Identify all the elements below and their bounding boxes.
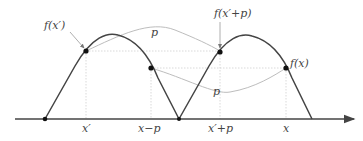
guide-lines — [86, 51, 286, 119]
tick-label-x-minus-p: x−p — [138, 122, 160, 135]
label-p-top: p — [151, 26, 158, 39]
point-f-xprime — [83, 48, 88, 53]
label-f-xprime-plus-p: f(x′+p) — [213, 7, 252, 20]
tick-label-x: x — [283, 122, 290, 135]
periodic-function-diagram: f(x′) f(x′+p) f(x) p p x′ x−p x′+p x — [0, 0, 363, 141]
point-f-x-minus-p — [148, 65, 153, 70]
label-p-bottom: p — [213, 85, 220, 98]
tick-label-xprime: x′ — [82, 122, 91, 135]
point-f-xprime-plus-p — [217, 49, 222, 54]
callout-arrow-f-xprime — [70, 32, 84, 48]
tick-label-xprime-plus-p: x′+p — [208, 122, 233, 135]
label-f-xprime: f(x′) — [43, 19, 65, 32]
point-zero-mid — [177, 117, 181, 121]
label-f-x: f(x) — [289, 57, 309, 70]
point-zero-left — [43, 117, 48, 122]
point-f-x — [283, 65, 288, 70]
